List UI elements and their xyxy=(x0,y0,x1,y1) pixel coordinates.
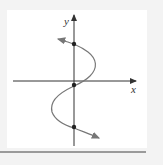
point-middle xyxy=(72,83,76,87)
y-axis-label: y xyxy=(63,15,69,27)
x-axis-label: x xyxy=(130,83,136,95)
point-bottom xyxy=(72,125,76,129)
graph: x y xyxy=(0,0,163,165)
point-top xyxy=(72,42,76,46)
curve xyxy=(52,40,99,138)
